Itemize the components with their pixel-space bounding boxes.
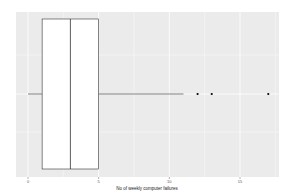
boxplot-chart — [0, 0, 294, 196]
outlier-point — [211, 93, 213, 95]
outlier-point — [197, 93, 199, 95]
x-tick-label: 0 — [27, 179, 29, 184]
x-tick-label: 10 — [167, 179, 171, 184]
outlier-point — [267, 93, 269, 95]
x-tick-label: 15 — [238, 179, 242, 184]
x-tick-label: 5 — [98, 179, 100, 184]
x-axis-title: No of weekly computer failures — [0, 186, 294, 191]
